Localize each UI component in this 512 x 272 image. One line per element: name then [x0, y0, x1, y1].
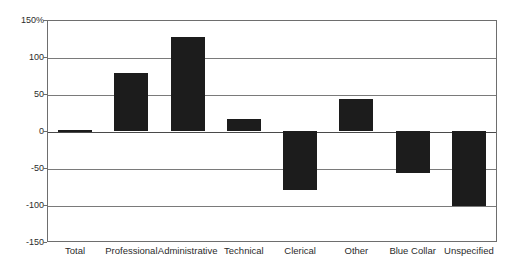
y-tick-label-100: 100 [2, 53, 44, 62]
y-tick-label-neg150: -150 [2, 238, 44, 247]
gridline-neg50 [48, 169, 496, 170]
y-tick-label-50: 50 [2, 90, 44, 99]
x-tick-label-clerical: Clerical [284, 245, 316, 257]
plot-area [47, 20, 497, 242]
x-tick-label-unspecified: Unspecified [444, 245, 494, 257]
x-tick-label-professional: Professional [105, 245, 157, 257]
gridline-100 [48, 58, 496, 59]
x-tick-label-other: Other [344, 245, 368, 257]
y-tick-label-neg50: -50 [2, 164, 44, 173]
gridline-50 [48, 95, 496, 96]
x-tick-label-technical: Technical [224, 245, 264, 257]
y-axis: 150% 100 50 0 -50 -100 -150 [0, 20, 44, 242]
y-tick-label-0: 0 [2, 127, 44, 136]
x-tick-label-blue-collar: Blue Collar [389, 245, 435, 257]
x-tick-label-administrative: Administrative [158, 245, 218, 257]
gridline-neg100 [48, 206, 496, 207]
y-tick-label-neg100: -100 [2, 201, 44, 210]
x-axis: Total Professional Administrative Techni… [47, 245, 497, 261]
bar-chart: 150% 100 50 0 -50 -100 -150 Total [0, 0, 512, 272]
gridline-zero [48, 132, 496, 133]
y-tick-label-150: 150% [2, 16, 44, 25]
x-tick-label-total: Total [65, 245, 85, 257]
y-tick-mark-neg150 [43, 242, 47, 243]
